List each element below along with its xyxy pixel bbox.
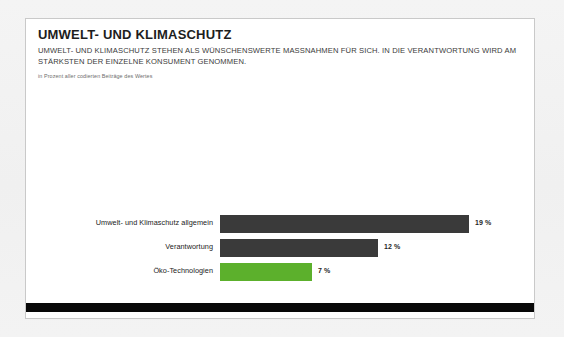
bar-value-label: 19 % (475, 219, 491, 226)
bar-track: 19 % (220, 215, 530, 233)
chart-unit-caption: in Prozent aller codierten Beiträge des … (38, 73, 522, 79)
bar-row: Öko-Technologien 7 % (26, 263, 534, 287)
footer-bar (26, 303, 534, 312)
bar-track: 12 % (220, 239, 530, 257)
slide-header: UMWELT- UND KLIMASCHUTZ UMWELT- UND KLIM… (38, 28, 522, 79)
page-title: UMWELT- UND KLIMASCHUTZ (38, 28, 522, 43)
bar-chart: Umwelt- und Klimaschutz allgemein 19 % V… (26, 215, 534, 295)
bar-row: Verantwortung 12 % (26, 239, 534, 263)
bar-category-label: Verantwortung (26, 242, 213, 251)
bar-value-label: 12 % (384, 243, 400, 250)
bar-segment (220, 263, 312, 281)
slide-card: UMWELT- UND KLIMASCHUTZ UMWELT- UND KLIM… (25, 18, 535, 319)
bar-value-label: 7 % (318, 267, 330, 274)
bar-track: 7 % (220, 263, 530, 281)
bar-row: Umwelt- und Klimaschutz allgemein 19 % (26, 215, 534, 239)
slide-content: UMWELT- UND KLIMASCHUTZ UMWELT- UND KLIM… (26, 19, 534, 318)
slide-subtitle: UMWELT- UND KLIMASCHUTZ STEHEN ALS WÜNSC… (38, 45, 520, 67)
bar-segment (220, 239, 378, 257)
bar-category-label: Öko-Technologien (26, 266, 213, 275)
bar-category-label: Umwelt- und Klimaschutz allgemein (26, 218, 213, 227)
bar-segment (220, 215, 469, 233)
